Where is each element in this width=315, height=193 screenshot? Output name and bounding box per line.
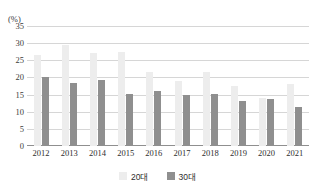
- bar: [146, 72, 153, 146]
- x-axis-tick-label: 2020: [255, 148, 279, 158]
- bar: [118, 52, 125, 146]
- bar-group: [255, 26, 279, 146]
- x-axis-tick-label: 2015: [114, 148, 138, 158]
- plot-area: [27, 26, 309, 146]
- legend-swatch: [167, 172, 175, 180]
- y-axis-tick-label: 35: [16, 22, 25, 31]
- bar: [62, 45, 69, 146]
- bar-chart: (%) 35302520151050 201220132014201520162…: [0, 0, 315, 193]
- bar-group: [170, 26, 194, 146]
- bar: [154, 91, 161, 146]
- bar-group: [29, 26, 53, 146]
- bar: [267, 99, 274, 146]
- bar-group: [57, 26, 81, 146]
- x-axis-labels: 2012201320142015201620172018201920202021: [27, 148, 309, 162]
- chart-legend: 20대30대: [0, 168, 315, 184]
- bar: [34, 55, 41, 146]
- bar: [175, 81, 182, 146]
- legend-label: 30대: [179, 170, 196, 182]
- legend-label: 20대: [131, 170, 148, 182]
- bar: [231, 86, 238, 146]
- bar-group: [85, 26, 109, 146]
- y-axis-tick-label: 30: [16, 39, 25, 48]
- bar: [295, 107, 302, 146]
- legend-swatch: [119, 172, 127, 180]
- legend-item: 20대: [119, 170, 148, 182]
- bar: [183, 95, 190, 146]
- y-axis-tick-label: 0: [20, 142, 24, 151]
- x-axis-tick-label: 2014: [85, 148, 109, 158]
- bar-group: [226, 26, 250, 146]
- bar: [70, 83, 77, 146]
- bar: [90, 53, 97, 146]
- x-axis-tick-label: 2012: [29, 148, 53, 158]
- y-axis-tick-label: 25: [16, 56, 25, 65]
- x-axis-tick-label: 2013: [57, 148, 81, 158]
- bar-group: [142, 26, 166, 146]
- y-axis-tick-label: 10: [16, 107, 25, 116]
- x-axis-tick-label: 2021: [283, 148, 307, 158]
- cut-off-title: [0, 0, 315, 4]
- bar: [98, 80, 105, 146]
- y-axis-tick-label: 20: [16, 73, 25, 82]
- y-axis-ticks: 35302520151050: [0, 26, 24, 146]
- y-axis-tick-label: 15: [16, 90, 25, 99]
- bar: [287, 84, 294, 146]
- bar: [259, 98, 266, 146]
- bar-group: [198, 26, 222, 146]
- bar: [239, 101, 246, 146]
- x-axis-tick-label: 2017: [170, 148, 194, 158]
- bar-group: [114, 26, 138, 146]
- x-axis-tick-label: 2019: [226, 148, 250, 158]
- bar: [211, 94, 218, 146]
- bar: [126, 94, 133, 146]
- bar-groups: [27, 26, 309, 146]
- bar-group: [283, 26, 307, 146]
- x-axis-tick-label: 2018: [198, 148, 222, 158]
- legend-item: 30대: [167, 170, 196, 182]
- x-axis-tick-label: 2016: [142, 148, 166, 158]
- bar: [203, 72, 210, 146]
- bar: [42, 77, 49, 146]
- y-axis-tick-label: 5: [20, 125, 24, 134]
